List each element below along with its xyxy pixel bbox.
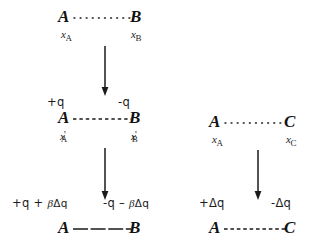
coord-right-mid-xb-prime: x'B [131, 130, 138, 144]
atom-left-top-a: A [58, 8, 69, 25]
coord-left-top-xa: xA [61, 29, 72, 43]
atom-left-bot-a: A [58, 219, 69, 236]
charge-text: +q + [12, 196, 47, 210]
charge-text: -q – [103, 196, 129, 210]
charge-right-col-bot-plus: +Δq [199, 198, 225, 210]
coord-subscript: A [61, 134, 68, 144]
arrow-intermediate-to-final [98, 148, 112, 200]
charge-left-bot-plus: +q + βΔq [12, 198, 68, 210]
atom-right-top-b: B [130, 8, 141, 25]
diagram-canvas: A B xA xB +q -q A B x'A x'B [0, 0, 319, 250]
charge-right-bot-minus: -q – βΔq [103, 198, 149, 210]
atom-right-mid-b: B [129, 109, 140, 126]
arrow-initial-to-intermediate [98, 46, 112, 96]
coord-right-col-top-xa: xA [212, 134, 223, 148]
coord-subscript: C [290, 138, 296, 148]
atom-right-bot-b: B [129, 219, 140, 236]
charge-right-mid-minus: -q [118, 97, 130, 109]
coord-right-top-xb: xB [131, 29, 141, 43]
coord-left-mid-xa-prime: x'A [60, 130, 67, 144]
charge-left-mid-plus: +q [47, 97, 65, 109]
delta-q: Δq [53, 197, 67, 209]
atom-right-bot-c: C [284, 219, 295, 236]
atom-left-top-a-right-col: A [209, 113, 220, 130]
coord-subscript: B [135, 33, 141, 43]
atom-right-top-c: C [284, 113, 295, 130]
charge-right-col-bot-minus: -Δq [271, 198, 291, 210]
atom-left-bot-a-right-col: A [209, 219, 220, 236]
delta-q: Δq [135, 197, 149, 209]
coord-right-col-top-xc: xC [286, 134, 296, 148]
coord-subscript: A [65, 33, 72, 43]
coord-subscript: A [216, 138, 223, 148]
atom-left-mid-a: A [58, 109, 69, 126]
coord-subscript: B [132, 134, 138, 144]
arrow-ac-initial-to-final [251, 150, 265, 200]
